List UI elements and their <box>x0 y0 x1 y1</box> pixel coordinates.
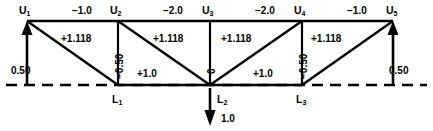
node-label-l1: L1 <box>112 94 122 105</box>
member-diagonal-u2-l2 <box>118 21 210 85</box>
load-arrow-l2 <box>205 88 216 126</box>
force-diagonal-u2-l2: +1.118 <box>153 34 183 44</box>
node-label-u1: U1 <box>19 5 31 16</box>
node-label-l2: L2 <box>217 94 227 105</box>
force-bottom-chord-l2-l3: +1.0 <box>253 69 273 79</box>
load-label-l2: 1.0 <box>221 114 235 124</box>
force-vertical-u3-l2: 0 <box>207 68 217 74</box>
force-diagonal-u1-l1: +1.118 <box>61 34 91 44</box>
reaction-label-left: 0.50 <box>11 66 30 76</box>
force-bottom-chord-l1-l2: +1.0 <box>137 69 157 79</box>
force-top-chord-u2-u3: −2.0 <box>163 6 183 16</box>
force-diagonal-l2-u3: +1.118 <box>221 34 251 44</box>
node-label-u5: U5 <box>386 5 398 16</box>
force-vertical-u4-l3: −0.50 <box>299 54 309 79</box>
node-label-u3: U3 <box>202 5 214 16</box>
reaction-label-right: 0.50 <box>389 66 408 76</box>
node-label-u4: U4 <box>294 5 306 16</box>
truss-drawing <box>0 0 433 131</box>
force-top-chord-u1-u2: −1.0 <box>72 6 92 16</box>
force-vertical-u2-l1: −0.50 <box>115 54 125 79</box>
node-label-u2: U2 <box>110 5 122 16</box>
force-diagonal-l3-u4: +1.118 <box>311 34 341 44</box>
force-top-chord-u3-u4: −2.0 <box>255 6 275 16</box>
truss-diagram: U1 U2 U3 U4 U5 L1 L2 L3 −1.0 −2.0 −2.0 −… <box>0 0 433 131</box>
member-diagonal-u1-l1 <box>27 21 118 85</box>
force-top-chord-u4-u5: −1.0 <box>347 6 367 16</box>
member-diagonal-l3-u5 <box>302 21 393 85</box>
node-label-l3: L3 <box>296 94 306 105</box>
